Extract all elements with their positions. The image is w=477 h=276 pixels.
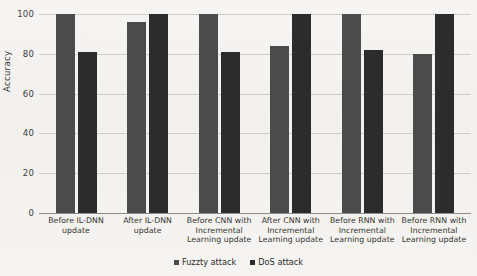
chart-figure: Accuracy 100 80 60 40 20 0 Before IL-DNN… — [0, 0, 477, 276]
bar-group — [333, 14, 391, 213]
y-axis-title: Accuracy — [2, 51, 12, 92]
x-axis-label: Before CNN withIncrementalLearning updat… — [184, 216, 254, 245]
y-tick-0: 0 — [28, 208, 34, 218]
bar — [221, 52, 240, 213]
bar — [149, 14, 168, 213]
bar-group — [262, 14, 320, 213]
bar — [127, 22, 146, 213]
bar-group — [405, 14, 463, 213]
legend-swatch-icon — [250, 260, 255, 265]
bar-group — [47, 14, 105, 213]
legend-label: Fuzzty attack — [182, 257, 236, 267]
legend-item[interactable]: Fuzzty attack — [174, 257, 236, 267]
bar-groups — [39, 14, 471, 213]
legend-swatch-icon — [174, 260, 179, 265]
x-axis-label: Before RNN withIncrementalLearning updat… — [327, 216, 397, 245]
y-tick-60: 60 — [23, 89, 34, 99]
plot-area — [39, 14, 471, 213]
bar — [199, 14, 218, 213]
x-axis-label: After CNN withIncrementalLearning update — [256, 216, 326, 245]
chart-legend: Fuzzty attackDoS attack — [0, 257, 477, 267]
bar — [56, 14, 75, 213]
y-tick-100: 100 — [17, 9, 34, 19]
axis-baseline — [39, 213, 471, 214]
y-tick-80: 80 — [23, 49, 34, 59]
bar — [413, 54, 432, 213]
y-axis: Accuracy 100 80 60 40 20 0 — [0, 0, 39, 213]
bar — [270, 46, 289, 213]
bar-group — [119, 14, 177, 213]
bar — [435, 14, 454, 213]
legend-label: DoS attack — [258, 257, 303, 267]
legend-item[interactable]: DoS attack — [250, 257, 303, 267]
bar — [364, 50, 383, 213]
y-tick-20: 20 — [23, 168, 34, 178]
bar — [78, 52, 97, 213]
x-axis-label: Before IL-DNNupdate — [41, 216, 111, 245]
bar — [292, 14, 311, 213]
x-axis-label: Before RNN withIncrementalLearning updat… — [399, 216, 469, 245]
bar — [342, 14, 361, 213]
y-tick-40: 40 — [23, 128, 34, 138]
x-axis-label: After IL-DNNupdate — [113, 216, 183, 245]
x-axis-labels: Before IL-DNNupdateAfter IL-DNNupdateBef… — [39, 216, 471, 245]
bar-group — [190, 14, 248, 213]
